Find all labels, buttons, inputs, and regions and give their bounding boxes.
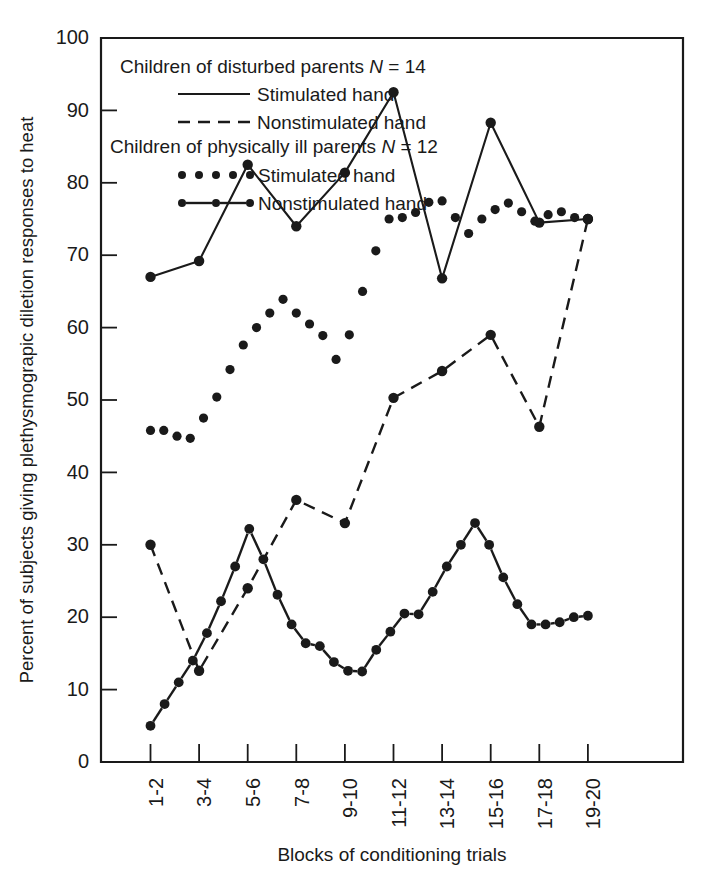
data-point-marker (371, 645, 381, 655)
x-tick-label: 11-12 (388, 778, 410, 828)
data-point-marker (194, 256, 204, 266)
data-point-dot (371, 246, 380, 255)
data-point-dot (265, 309, 274, 318)
data-point-marker (527, 620, 537, 630)
data-point-dot (477, 214, 486, 223)
y-tick-label: 40 (67, 461, 89, 483)
y-tick-label: 0 (78, 750, 89, 772)
x-tick-label: 17-18 (534, 778, 556, 829)
data-point-dot (438, 196, 447, 205)
data-point-marker (188, 656, 198, 666)
legend-group2-item1-label: Stimulated hand (258, 165, 395, 186)
data-point-marker (498, 572, 508, 582)
data-point-marker (340, 167, 350, 177)
data-point-dot (186, 434, 195, 443)
data-point-dot (504, 198, 513, 207)
x-tick-label: 1-2 (145, 778, 167, 807)
data-point-dot (464, 229, 473, 238)
data-point-marker (534, 422, 544, 432)
y-tick-label: 100 (56, 26, 89, 48)
data-point-marker (388, 393, 398, 403)
data-point-dot (225, 365, 234, 374)
legend-group1-n-value: = 14 (383, 56, 426, 77)
series-connector (311, 644, 315, 645)
y-tick-label: 70 (67, 243, 89, 265)
data-point-dot (159, 426, 168, 435)
x-tick-label: 7-8 (291, 778, 313, 807)
legend-group2-n-value: = 12 (395, 136, 438, 157)
legend-group1-title-prefix: Children of disturbed parents (120, 56, 369, 77)
data-point-marker (400, 609, 410, 619)
y-tick-label: 10 (67, 678, 89, 700)
x-tick-label: 5-6 (242, 778, 264, 807)
data-point-marker (194, 666, 204, 676)
data-point-dot (451, 213, 460, 222)
data-point-marker (486, 118, 496, 128)
x-tick-label: 19-20 (582, 778, 604, 829)
data-point-dot (146, 426, 155, 435)
data-point-marker (437, 366, 447, 376)
data-point-dot (278, 295, 287, 304)
data-point-marker (160, 699, 170, 709)
data-point-dot (199, 414, 208, 423)
data-point-marker (442, 562, 452, 572)
data-point-dot (557, 207, 566, 216)
data-point-marker (357, 667, 367, 677)
y-tick-label: 90 (67, 99, 89, 121)
data-point-marker (541, 620, 551, 630)
data-point-dot (172, 432, 181, 441)
data-point-marker (243, 583, 253, 593)
data-point-marker (470, 518, 480, 528)
series-connector (564, 619, 569, 621)
data-point-dot (491, 205, 500, 214)
data-point-dot (345, 330, 354, 339)
data-point-marker (385, 627, 395, 637)
data-point-dot (583, 214, 592, 223)
data-point-dot (305, 319, 314, 328)
data-point-dot (411, 208, 420, 217)
data-point-dot (398, 213, 407, 222)
data-point-marker (486, 330, 496, 340)
data-point-dot (384, 214, 393, 223)
data-point-marker (428, 587, 438, 597)
data-point-dot (252, 323, 261, 332)
y-tick-label: 30 (67, 533, 89, 555)
data-point-marker (291, 495, 301, 505)
data-point-marker (216, 596, 226, 606)
data-point-dot (570, 213, 579, 222)
y-tick-label: 80 (67, 171, 89, 193)
y-tick-label: 20 (67, 605, 89, 627)
chart-figure: 0102030405060708090100 1-23-45-67-89-101… (0, 0, 724, 883)
data-point-marker (456, 540, 466, 550)
data-point-marker (315, 641, 325, 651)
data-point-marker (583, 611, 593, 621)
legend-group2-title-prefix: Children of physically ill parents (110, 136, 381, 157)
data-point-marker (484, 540, 494, 550)
data-point-marker (555, 617, 565, 627)
legend-group1-title: Children of disturbed parents N = 14 (120, 56, 426, 77)
data-point-marker (437, 273, 447, 283)
data-point-marker (145, 540, 155, 550)
legend-group1-item1-label: Stimulated hand (257, 84, 394, 105)
data-point-marker (343, 666, 353, 676)
data-point-marker (202, 628, 212, 638)
data-point-marker (273, 590, 283, 600)
data-point-marker (287, 620, 297, 630)
data-point-dot (530, 217, 539, 226)
legend-group2-n-symbol: N (381, 136, 395, 157)
data-point-marker (258, 554, 268, 564)
legend-group1-n-symbol: N (369, 56, 383, 77)
data-point-dot (239, 340, 248, 349)
legend-group2-title: Children of physically ill parents N = 1… (110, 136, 438, 157)
x-tick-label: 15-16 (485, 778, 507, 829)
x-tick-label: 13-14 (436, 778, 458, 829)
y-tick-label: 60 (67, 316, 89, 338)
data-point-marker (145, 272, 155, 282)
data-point-marker (146, 721, 156, 731)
plethysmographic-response-line-chart: 0102030405060708090100 1-23-45-67-89-101… (0, 0, 724, 883)
x-tick-label: 3-4 (193, 778, 215, 807)
x-axis-title: Blocks of conditioning trials (277, 844, 506, 865)
data-point-dot (358, 287, 367, 296)
data-point-dot (292, 309, 301, 318)
data-point-marker (414, 609, 424, 619)
